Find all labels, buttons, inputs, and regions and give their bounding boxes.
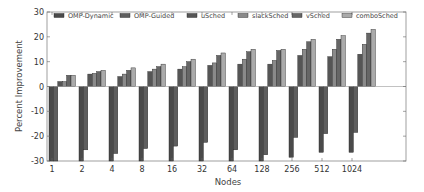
- bar: [367, 33, 371, 86]
- bar: [212, 63, 216, 87]
- x-tick-label: 1024: [342, 165, 362, 174]
- bar: [97, 72, 101, 87]
- x-tick-label: 2: [79, 165, 84, 174]
- y-tick-label: 20: [34, 33, 44, 42]
- bar: [152, 69, 156, 86]
- bar-chart: -30-20-100102030 12481632641282565121024…: [0, 0, 424, 192]
- legend-swatch: [292, 14, 302, 18]
- bar: [157, 67, 161, 87]
- bar: [187, 62, 191, 87]
- legend-label: comboSched: [356, 12, 398, 20]
- bar: [191, 59, 195, 86]
- bar: [251, 49, 255, 86]
- y-axis-label: Percent Improvement: [14, 39, 24, 132]
- bar: [259, 87, 263, 162]
- y-tick-label: 30: [34, 8, 44, 17]
- bar: [199, 87, 203, 162]
- bar: [272, 60, 276, 86]
- y-tick-label: 10: [34, 58, 44, 67]
- legend-swatch: [238, 14, 248, 18]
- legend-label: OMP-Dynamic: [68, 12, 114, 20]
- legend-label: vSched: [306, 12, 330, 20]
- bar: [298, 55, 302, 86]
- bar: [148, 72, 152, 87]
- bar: [302, 49, 306, 86]
- legend-swatch: [187, 14, 197, 18]
- x-tick-label: 512: [314, 165, 329, 174]
- y-tick-label: -10: [31, 107, 44, 116]
- bar: [268, 64, 272, 86]
- x-tick-label: 1: [49, 165, 54, 174]
- bar: [221, 53, 225, 87]
- bar: [203, 87, 207, 143]
- bar: [101, 70, 105, 86]
- legend-swatch: [54, 14, 64, 18]
- bar: [182, 67, 186, 87]
- bar: [53, 87, 57, 162]
- bar: [319, 87, 323, 153]
- bar: [67, 75, 71, 86]
- x-tick-label: 16: [167, 165, 177, 174]
- legend-swatch: [120, 14, 130, 18]
- bar: [88, 74, 92, 86]
- bar: [293, 87, 297, 138]
- bar: [277, 50, 281, 86]
- bar: [71, 75, 75, 86]
- bar: [62, 82, 66, 87]
- bar: [143, 87, 147, 149]
- bar: [371, 29, 375, 86]
- bar: [362, 44, 366, 86]
- bar: [83, 87, 87, 150]
- legend-label: uSched: [201, 12, 225, 20]
- bar: [208, 65, 212, 86]
- bar: [169, 87, 173, 162]
- bar: [173, 87, 177, 147]
- legend-label: slackSched: [252, 12, 288, 20]
- bar: [122, 74, 126, 86]
- bar: [281, 49, 285, 86]
- legend-swatch: [342, 14, 352, 18]
- bar: [289, 87, 293, 158]
- bar: [178, 69, 182, 86]
- bar: [139, 87, 143, 162]
- y-tick-label: -20: [31, 132, 44, 141]
- bar: [238, 64, 242, 86]
- bar: [328, 57, 332, 87]
- bar: [341, 36, 345, 87]
- bar: [247, 52, 251, 87]
- bar: [92, 73, 96, 86]
- legend-label: OMP-Guided: [134, 12, 174, 20]
- x-tick-label: 8: [139, 165, 144, 174]
- bar: [49, 87, 53, 162]
- bar: [109, 87, 113, 162]
- x-tick-label: 4: [109, 165, 114, 174]
- x-tick-label: 64: [227, 165, 237, 174]
- bar: [113, 87, 117, 154]
- bar: [127, 70, 131, 86]
- bar: [131, 68, 135, 87]
- x-tick-label: 128: [254, 165, 269, 174]
- x-tick-label: 256: [284, 165, 299, 174]
- bar: [332, 49, 336, 86]
- bar: [118, 77, 122, 87]
- bar: [349, 87, 353, 153]
- bar: [311, 39, 315, 86]
- x-axis-label: Nodes: [215, 177, 242, 187]
- bar: [161, 64, 165, 86]
- y-tick-label: 0: [39, 83, 44, 92]
- bar: [323, 87, 327, 134]
- bar: [58, 82, 62, 87]
- x-tick-label: 32: [197, 165, 207, 174]
- bar: [337, 39, 341, 86]
- bar: [263, 87, 267, 155]
- bar: [233, 87, 237, 150]
- bar: [353, 87, 357, 133]
- bar: [242, 59, 246, 86]
- y-tick-label: -30: [31, 157, 44, 166]
- bar: [358, 54, 362, 86]
- bar: [307, 42, 311, 87]
- bar: [79, 87, 83, 162]
- bar: [217, 55, 221, 86]
- bar: [229, 87, 233, 162]
